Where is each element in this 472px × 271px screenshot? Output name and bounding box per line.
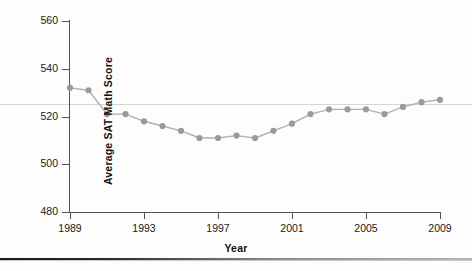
data-point [159, 123, 165, 129]
x-axis-tick-label: 1989 [40, 222, 100, 234]
y-axis-tick-label: 520 [20, 110, 58, 122]
data-point [67, 85, 73, 91]
data-point [122, 111, 128, 117]
page-bottom-rule-secondary [0, 260, 472, 261]
x-axis-tick-label: 1993 [114, 222, 174, 234]
x-axis-tick [144, 212, 145, 219]
x-axis-tick-label: 2009 [410, 222, 470, 234]
data-point [344, 106, 350, 112]
data-point [289, 121, 295, 127]
x-axis-tick-label: 2001 [262, 222, 322, 234]
y-axis-tick-label: 560 [20, 14, 58, 26]
y-axis-tick [62, 117, 70, 118]
data-point [141, 118, 147, 124]
y-axis-tick [62, 21, 70, 22]
data-point [363, 106, 369, 112]
data-point [437, 97, 443, 103]
y-axis-tick [62, 212, 70, 213]
data-point [233, 133, 239, 139]
y-axis-tick-label: 480 [20, 205, 58, 217]
data-point [178, 128, 184, 134]
y-axis-tick [62, 69, 70, 70]
x-axis-title: Year [0, 242, 472, 254]
data-point [252, 135, 258, 141]
y-axis-title: Average SAT Math Score [102, 21, 114, 221]
x-axis-tick [70, 212, 71, 219]
data-point [215, 135, 221, 141]
data-point [418, 99, 424, 105]
y-axis-tick [62, 164, 70, 165]
x-axis-line [69, 212, 441, 213]
x-axis-tick [218, 212, 219, 219]
data-point [381, 111, 387, 117]
data-point [400, 104, 406, 110]
x-axis-tick-label: 1997 [188, 222, 248, 234]
x-axis-tick [440, 212, 441, 219]
x-axis-tick-label: 2005 [336, 222, 396, 234]
chart-page: 480500520540560 198919931997200120052009… [0, 0, 472, 271]
data-point [307, 111, 313, 117]
y-axis-tick-label: 540 [20, 62, 58, 74]
x-axis-tick [366, 212, 367, 219]
plot-area: Average SAT Math Score [70, 21, 440, 212]
data-point [196, 135, 202, 141]
data-point [85, 87, 91, 93]
data-point [326, 106, 332, 112]
x-axis-tick [292, 212, 293, 219]
line-series [70, 21, 440, 212]
y-axis-tick-label: 500 [20, 157, 58, 169]
data-point [270, 128, 276, 134]
